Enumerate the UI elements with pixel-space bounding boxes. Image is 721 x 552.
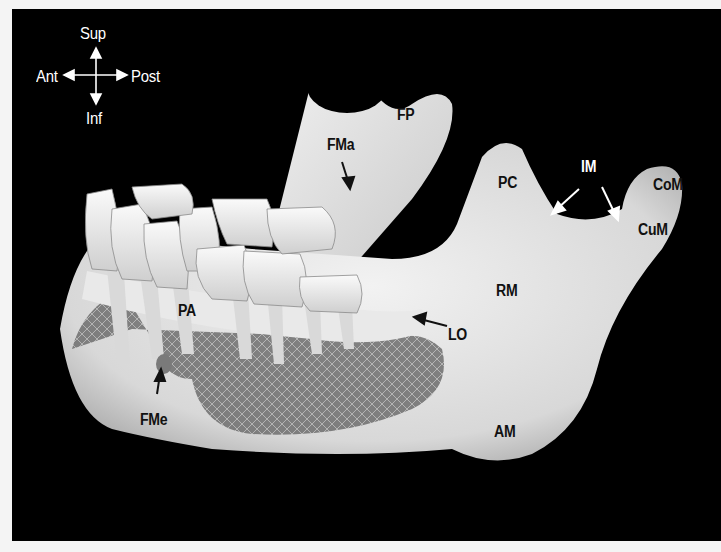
label-anterior: Ant — [36, 68, 58, 85]
label-fme: FMe — [140, 412, 167, 428]
label-fma: FMa — [327, 137, 354, 153]
label-am: AM — [494, 424, 515, 440]
label-cum: CuM — [638, 222, 668, 238]
label-rm: RM — [496, 283, 517, 299]
label-posterior: Post — [131, 68, 160, 85]
mental-foramen-shape — [156, 354, 172, 374]
label-superior: Sup — [80, 25, 106, 42]
label-inferior: Inf — [86, 110, 102, 127]
label-pc: PC — [498, 175, 517, 191]
label-fp: FP — [397, 107, 414, 123]
mandible-illustration — [12, 9, 721, 541]
label-im: IM — [581, 159, 596, 175]
label-com: CoM — [653, 177, 683, 193]
im-arrows — [552, 187, 619, 220]
label-pa: PA — [178, 303, 196, 319]
orientation-compass-icon — [64, 48, 127, 104]
label-lo: LO — [448, 327, 467, 343]
figure-frame: Sup Ant Post Inf FP FMa PC IM CoM CuM RM… — [12, 9, 721, 541]
